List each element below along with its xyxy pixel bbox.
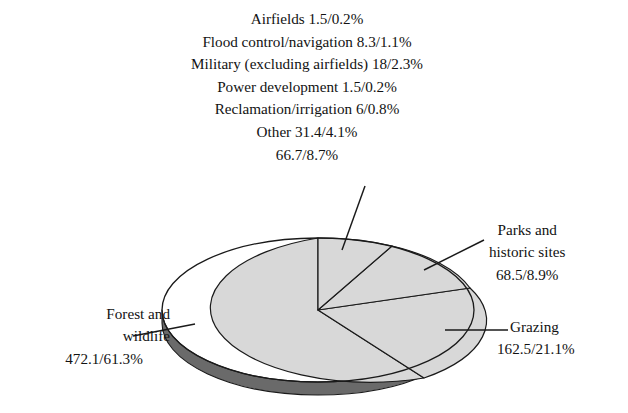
parks-label-value: 68.5/8.9% <box>489 264 565 286</box>
grazing-label-name: Grazing <box>497 316 575 338</box>
pie-chart-figure: Airfields 1.5/0.2% Flood control/navigat… <box>0 0 628 413</box>
callout-label-other-combined: Airfields 1.5/0.2% Flood control/navigat… <box>0 8 628 166</box>
leader-line-parks-and-historic-sites <box>424 240 484 270</box>
callout-line-reclamation-irrigation: Reclamation/irrigation 6/0.8% <box>0 98 614 121</box>
forest-label-line-1: Forest and <box>30 303 170 325</box>
callout-line-power-development: Power development 1.5/0.2% <box>0 76 614 99</box>
parks-label-line-2: historic sites <box>489 241 565 263</box>
callout-line-airfields: Airfields 1.5/0.2% <box>0 8 614 31</box>
callout-line-other: Other 31.4/4.1% <box>0 121 614 144</box>
callout-line-other-combined-total: 66.7/8.7% <box>0 144 614 167</box>
forest-label-line-2: wildlife <box>30 325 170 347</box>
callout-label-forest-and-wildlife: Forest and wildlife 472.1/61.3% <box>30 303 170 370</box>
grazing-label-value: 162.5/21.1% <box>497 338 575 360</box>
parks-label-line-1: Parks and <box>489 219 565 241</box>
forest-label-value: 472.1/61.3% <box>30 348 178 370</box>
callout-line-military-excluding-airfields: Military (excluding airfields) 18/2.3% <box>0 53 614 76</box>
callout-line-flood-control-navigation: Flood control/navigation 8.3/1.1% <box>0 31 614 54</box>
callout-label-parks-and-historic-sites: Parks and historic sites 68.5/8.9% <box>489 219 565 286</box>
callout-label-grazing: Grazing 162.5/21.1% <box>497 316 575 361</box>
